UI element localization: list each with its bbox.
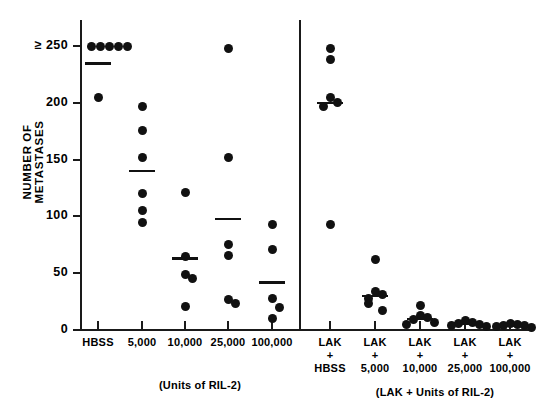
x-tick-25-000	[227, 321, 229, 329]
group-mean-bar	[452, 322, 478, 325]
data-point	[268, 294, 277, 303]
x-tick-10-000	[184, 321, 186, 329]
group-mean-bar	[317, 102, 343, 105]
group-mean-bar	[172, 257, 198, 260]
data-point	[87, 42, 96, 51]
x-tick-label-line: LAK	[465, 336, 544, 349]
y-tick-200	[73, 102, 81, 104]
group-mean-bar	[215, 218, 241, 221]
data-point	[326, 55, 335, 64]
data-point	[105, 42, 114, 51]
x-axis-line	[80, 329, 530, 331]
y-tick-50	[73, 272, 81, 274]
data-point	[224, 44, 233, 53]
data-point	[527, 323, 536, 332]
metastases-dot-plot: NUMBER OF METASTASES 050100150200≥ 250 H…	[0, 0, 544, 410]
x-tick-lak-10-000	[419, 321, 421, 329]
right-panel-caption: (LAK + Units of RIL-2)	[340, 386, 530, 398]
data-point	[138, 206, 147, 215]
x-tick-5-000	[141, 321, 143, 329]
data-point	[181, 188, 190, 197]
data-point	[224, 153, 233, 162]
data-point	[231, 299, 240, 308]
group-mean-bar	[129, 170, 155, 173]
data-point	[326, 220, 335, 229]
x-tick-lak-5-000	[374, 321, 376, 329]
x-tick-label-line: 100,000	[465, 362, 544, 375]
y-tick-label-100: 100	[8, 208, 68, 222]
data-point	[138, 189, 147, 198]
data-point	[364, 299, 373, 308]
x-tick-lak-hbss	[329, 321, 331, 329]
data-point	[96, 42, 105, 51]
data-point	[402, 320, 411, 329]
y-tick-label-150: 150	[8, 152, 68, 166]
data-point	[378, 306, 387, 315]
group-mean-bar	[407, 318, 433, 321]
data-point	[114, 42, 123, 51]
data-point	[123, 42, 132, 51]
data-point	[188, 274, 197, 283]
data-point	[482, 322, 491, 331]
data-point	[275, 303, 284, 312]
y-axis-line	[80, 20, 82, 331]
data-point	[326, 44, 335, 53]
group-mean-bar	[259, 281, 285, 284]
data-point	[268, 220, 277, 229]
data-point	[138, 126, 147, 135]
data-point	[416, 301, 425, 310]
y-tick-100	[73, 215, 81, 217]
data-point	[138, 218, 147, 227]
group-mean-bar	[497, 324, 523, 327]
group-mean-bar	[85, 62, 111, 65]
x-tick-hbss	[97, 321, 99, 329]
y-tick-label-50: 50	[8, 265, 68, 279]
data-point	[138, 153, 147, 162]
data-point	[181, 302, 190, 311]
data-point	[224, 240, 233, 249]
group-mean-bar	[362, 295, 388, 298]
data-point	[371, 255, 380, 264]
y-tick-label-200: 200	[8, 95, 68, 109]
y-tick-label-250: ≥ 250	[8, 38, 68, 52]
left-panel-caption: (Units of RIL-2)	[110, 379, 290, 391]
data-point	[268, 245, 277, 254]
y-tick-250	[73, 45, 81, 47]
x-tick-label-line: +	[465, 349, 544, 362]
data-point	[268, 314, 277, 323]
data-point	[94, 93, 103, 102]
y-tick-150	[73, 159, 81, 161]
x-tick-label-lak-100-000: LAK+100,000	[465, 336, 544, 375]
y-tick-label-0: 0	[8, 322, 68, 336]
data-point	[138, 102, 147, 111]
y-tick-0	[73, 329, 81, 331]
panel-divider-line	[299, 20, 301, 331]
data-point	[224, 251, 233, 260]
